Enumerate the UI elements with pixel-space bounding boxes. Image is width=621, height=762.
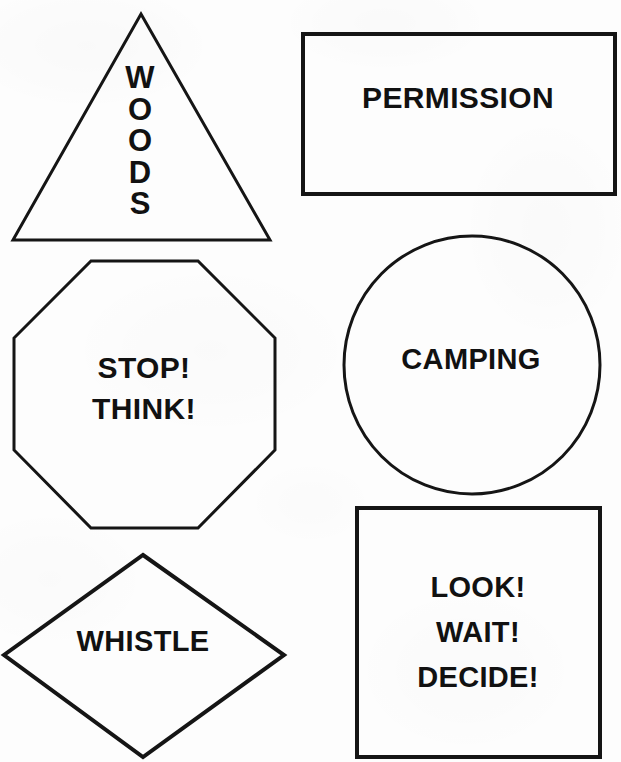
rectangle-shape-icon (299, 30, 619, 200)
ellipse-label: CAMPING (343, 345, 599, 375)
diamond-label: WHISTLE (3, 627, 283, 657)
octagon-label: STOP! THINK! (13, 347, 275, 429)
triangle-label: W O O D S (112, 62, 168, 220)
worksheet-page: W O O D S PERMISSION STOP! THINK! CAMPIN… (0, 0, 621, 762)
rectangle-label: PERMISSION (303, 83, 613, 114)
square-label: LOOK! WAIT! DECIDE! (357, 565, 599, 700)
